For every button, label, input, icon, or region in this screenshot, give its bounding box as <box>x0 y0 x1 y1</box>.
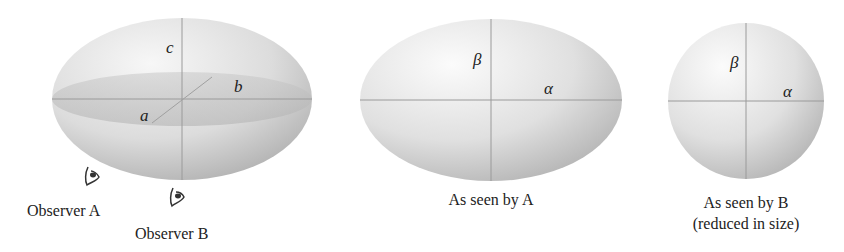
label-beta-a: β <box>473 50 481 69</box>
circle-view-b <box>668 23 824 179</box>
label-beta-b: β <box>730 53 738 72</box>
eye-icon <box>86 167 99 185</box>
label-a: a <box>140 106 149 125</box>
caption-view-b-line2: (reduced in size) <box>676 214 816 233</box>
caption-view-b-line1: As seen by B <box>688 193 804 212</box>
label-alpha-a: α <box>544 79 553 98</box>
label-b: b <box>234 77 243 96</box>
observer-b-label: Observer B <box>135 224 208 243</box>
observer-a-label: Observer A <box>27 201 100 220</box>
label-c: c <box>166 38 174 57</box>
ellipse-view-a <box>360 19 622 181</box>
label-alpha-b: α <box>783 82 792 101</box>
eye-icon <box>171 188 184 206</box>
ellipsoid-3d <box>52 18 312 180</box>
caption-view-a: As seen by A <box>435 190 547 209</box>
